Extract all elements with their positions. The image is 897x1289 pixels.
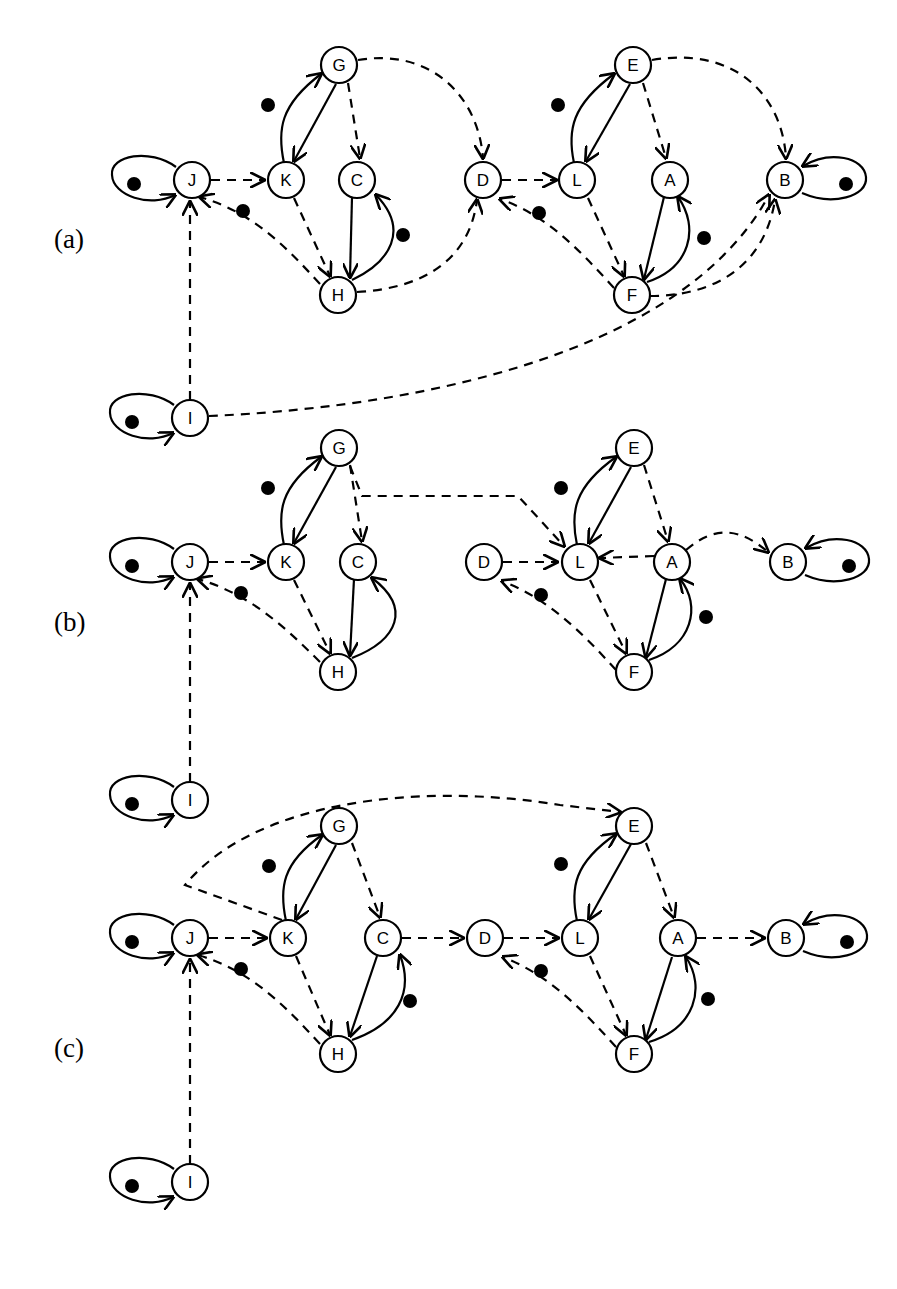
node-A[interactable]: A [652,162,688,198]
node-I[interactable]: I [172,782,208,818]
edge-B-B [803,915,867,957]
node-label: A [664,171,676,190]
node-B[interactable]: B [768,920,804,956]
panel-a: J K C D L A B G E H F I (a) [54,47,866,438]
edge-C-H [350,197,352,277]
node-C[interactable]: C [365,920,401,956]
node-label: J [186,553,195,572]
edge-E-A [644,465,668,541]
edge-G-L [350,466,564,546]
node-label: H [332,663,344,682]
edge-E-L [589,844,631,919]
node-label: E [628,817,639,836]
panel-label-a: (a) [54,224,84,254]
edge-F-A [649,957,696,1042]
node-F[interactable]: F [614,277,650,313]
edge-B-B [802,157,866,199]
node-J[interactable]: J [172,544,208,580]
node-label: C [351,171,363,190]
node-label: H [332,1045,344,1064]
edge-H-C [352,195,393,280]
node-L[interactable]: L [559,162,595,198]
edge-I-I [110,776,174,821]
node-E[interactable]: E [616,808,652,844]
node-label: B [782,553,793,572]
node-L[interactable]: L [562,544,598,580]
node-I[interactable]: I [172,1164,208,1200]
node-label: K [282,929,294,948]
node-label: A [672,929,684,948]
node-B[interactable]: B [770,544,806,580]
node-label: F [629,1045,639,1064]
node-A[interactable]: A [660,920,696,956]
edge-F-D [503,957,616,1047]
node-label: K [280,553,292,572]
edge-I-B [209,195,769,416]
edge-L-F [588,198,624,276]
node-J[interactable]: J [174,162,210,198]
edge-dot-I-I [125,1179,139,1193]
edge-dot-L-E [554,857,568,871]
node-F[interactable]: F [616,1036,652,1072]
node-label: D [479,929,491,948]
node-D[interactable]: D [467,920,503,956]
node-L[interactable]: L [562,920,598,956]
panel-label-c: (c) [54,1033,84,1063]
node-D[interactable]: D [465,162,501,198]
edge-dot-F-D [532,206,546,220]
edge-A-F [644,197,664,279]
edge-G-K [294,84,336,161]
edge-E-L [586,84,630,161]
edge-dot-J-J [125,935,139,949]
node-K[interactable]: K [268,162,304,198]
node-G[interactable]: G [321,430,357,466]
edge-E-L [589,467,631,543]
node-label: F [627,286,637,305]
node-J[interactable]: J [172,920,208,956]
edge-dot-B-B [839,177,853,191]
graph-diagram-svg: J K C D L A B G E H F I (a) [0,0,897,1289]
figure-canvas: J K C D L A B G E H F I (a) [0,0,897,1289]
edge-H-J [198,579,320,662]
edge-G-C [348,83,360,158]
node-label: K [280,171,292,190]
edge-dot-H-J [234,586,248,600]
node-F[interactable]: F [616,654,652,690]
edge-K-H [296,956,330,1035]
node-I[interactable]: I [172,400,208,436]
node-H[interactable]: H [320,277,356,313]
edge-K-H [294,580,330,653]
edge-F-B [650,200,775,296]
edge-dot-L-E [551,98,565,112]
node-A[interactable]: A [654,544,690,580]
node-B[interactable]: B [767,162,803,198]
node-E[interactable]: E [615,47,651,83]
node-K[interactable]: K [270,920,306,956]
node-label: D [478,553,490,572]
edge-dot-F-D [534,964,548,978]
node-C[interactable]: C [339,162,375,198]
node-E[interactable]: E [616,430,652,466]
edge-J-J [112,156,176,201]
node-H[interactable]: H [320,654,356,690]
node-label: I [188,1173,193,1192]
edge-dot-J-J [127,177,141,191]
node-G[interactable]: G [321,808,357,844]
panel-b: J K C D L A B G E H F I (b) [54,430,869,820]
panel-c: J K C D L A B G E H F I (c) [54,796,867,1203]
edge-dot-K-G [262,859,276,873]
node-label: J [188,171,197,190]
edge-K-H [294,198,330,276]
node-label: L [575,929,584,948]
node-H[interactable]: H [320,1036,356,1072]
node-C[interactable]: C [340,544,376,580]
node-D[interactable]: D [466,544,502,580]
node-G[interactable]: G [321,47,357,83]
edge-dot-L-E [554,481,568,495]
edge-K-E [185,796,620,920]
edge-dot-F-D [534,588,548,602]
node-K[interactable]: K [268,544,304,580]
node-label: L [575,553,584,572]
edge-E-A [643,83,666,158]
node-label: H [332,286,344,305]
